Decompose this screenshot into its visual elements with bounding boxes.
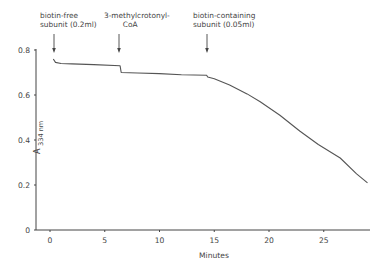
arrow-down-icon xyxy=(117,48,121,53)
axes: 00.20.40.60.80510152025 xyxy=(18,46,370,245)
x-tick-label: 0 xyxy=(48,236,53,245)
x-tick-label: 25 xyxy=(319,236,329,245)
series-line xyxy=(53,59,367,183)
y-tick-label: 0.4 xyxy=(18,136,30,145)
y-axis-label-sub: 334 nm xyxy=(37,121,45,146)
x-tick-label: 10 xyxy=(155,236,165,245)
arrow-down-icon xyxy=(205,48,209,53)
annotation-biotin-containing-subunit: biotin-containing subunit (0.05ml) xyxy=(193,11,255,29)
arrow-down-icon xyxy=(52,48,56,53)
y-axis-label-main: A xyxy=(33,148,42,154)
y-axis-label: A 334 nm xyxy=(33,121,45,154)
absorbance-chart: 00.20.40.60.80510152025 Minutes A 334 nm xyxy=(0,0,380,268)
annotation-biotin-free-subunit: biotin-free subunit (0.2ml) xyxy=(40,11,97,29)
y-tick-label: 0.2 xyxy=(18,181,30,190)
x-tick-label: 5 xyxy=(102,236,107,245)
annotation-arrows xyxy=(52,34,209,53)
y-tick-label: 0 xyxy=(25,226,30,235)
y-tick-label: 0.6 xyxy=(18,91,30,100)
x-tick-label: 15 xyxy=(209,236,219,245)
x-axis-label: Minutes xyxy=(199,251,229,260)
chart: 00.20.40.60.80510152025 Minutes A 334 nm… xyxy=(0,0,380,268)
absorbance-line xyxy=(53,59,367,183)
annotation-methylcrotonyl-coa: 3-methylcrotonyl- CoA xyxy=(104,11,170,29)
x-tick-label: 20 xyxy=(264,236,274,245)
y-tick-label: 0.8 xyxy=(18,46,30,55)
